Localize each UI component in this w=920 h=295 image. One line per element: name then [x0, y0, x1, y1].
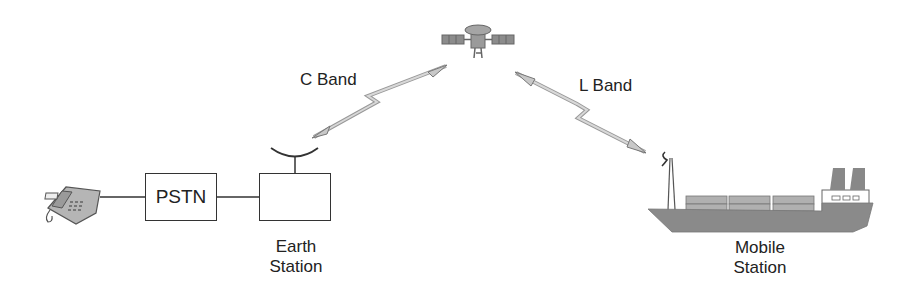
pstn-label: PSTN [156, 186, 207, 208]
ship-icon [648, 152, 873, 232]
earth-station-label-line2: Station [265, 257, 327, 277]
mobile-station-label-line2: Station [725, 258, 795, 278]
pstn-box: PSTN [145, 173, 217, 221]
earth-station-label-line1: Earth [265, 237, 327, 257]
l-band-label: L Band [579, 76, 632, 96]
mobile-station-label-line1: Mobile [725, 238, 795, 258]
c-band-label: C Band [300, 70, 357, 90]
dish-antenna-icon [271, 148, 318, 157]
earth-station-box [259, 173, 331, 221]
earth-station-label: Earth Station [265, 237, 327, 277]
mobile-station-label: Mobile Station [725, 238, 795, 278]
diagram-canvas: C Band L Band PSTN Earth Station Mobile … [0, 0, 920, 295]
satellite-icon [442, 25, 514, 58]
telephone-icon [45, 187, 100, 224]
